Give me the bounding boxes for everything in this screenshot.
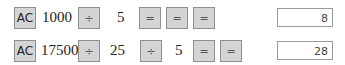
number-25: 25 — [110, 39, 125, 61]
equals-key-2[interactable]: = — [220, 40, 242, 62]
divide-key-1[interactable]: ÷ — [78, 40, 100, 62]
ac-key[interactable]: AC — [14, 7, 36, 29]
equals-key-1[interactable]: = — [193, 40, 215, 62]
result-display: 8 — [277, 8, 333, 27]
number-17500: 17500 — [41, 39, 79, 61]
number-5: 5 — [117, 6, 125, 28]
equals-key-2[interactable]: = — [166, 7, 188, 29]
equals-key-3[interactable]: = — [193, 7, 215, 29]
divide-key-2[interactable]: ÷ — [140, 40, 162, 62]
number-1000: 1000 — [42, 6, 72, 28]
ac-key[interactable]: AC — [14, 40, 36, 62]
number-5: 5 — [175, 39, 183, 61]
result-display: 28 — [277, 41, 333, 60]
divide-key[interactable]: ÷ — [78, 7, 100, 29]
equals-key-1[interactable]: = — [139, 7, 161, 29]
